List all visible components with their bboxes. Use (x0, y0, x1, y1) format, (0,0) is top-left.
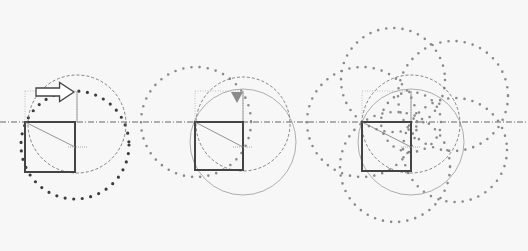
locus-diagram (0, 0, 528, 251)
background (0, 0, 528, 251)
